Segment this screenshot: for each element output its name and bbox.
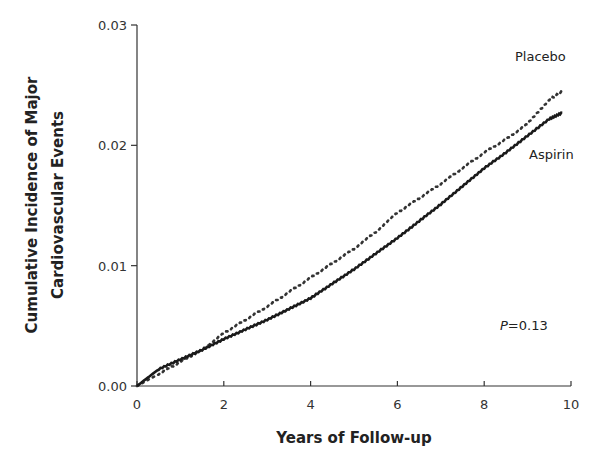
y-axis-ticks: 0.000.010.020.03 — [98, 18, 137, 394]
p-symbol: P — [500, 318, 508, 333]
p-value: =0.13 — [508, 318, 548, 333]
x-tick-label: 6 — [393, 397, 401, 412]
y-tick-label: 0.00 — [98, 379, 127, 394]
y-axis-title: Cumulative Incidence of Major Cardiovasc… — [23, 76, 67, 333]
series-lines — [137, 91, 562, 386]
x-tick-label: 10 — [563, 397, 580, 412]
y-axis-title-line2: Cardiovascular Events — [49, 111, 67, 299]
y-tick-label: 0.03 — [98, 18, 127, 33]
placebo-line — [137, 91, 562, 386]
x-tick-label: 8 — [480, 397, 488, 412]
y-axis-title-line1: Cumulative Incidence of Major — [23, 76, 41, 333]
x-tick-label: 4 — [306, 397, 314, 412]
x-tick-label: 2 — [220, 397, 228, 412]
y-tick-label: 0.01 — [98, 259, 127, 274]
cumulative-incidence-chart: Cumulative Incidence of Major Cardiovasc… — [0, 0, 596, 466]
placebo-label: Placebo — [515, 49, 566, 64]
x-tick-label: 0 — [133, 397, 141, 412]
aspirin-label: Aspirin — [529, 147, 574, 162]
x-axis-title: Years of Follow-up — [275, 429, 432, 447]
p-value-annotation: P=0.13 — [500, 318, 548, 333]
y-tick-label: 0.02 — [98, 138, 127, 153]
aspirin-line — [137, 113, 562, 386]
